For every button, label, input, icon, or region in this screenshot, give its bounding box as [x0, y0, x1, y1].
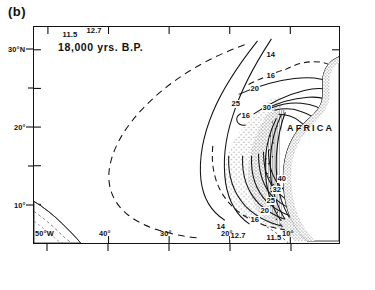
left-outer-ticks — [25, 26, 34, 244]
contour-label-25-top: 25 — [231, 100, 241, 108]
contour-label-16-interior: 16 — [241, 112, 251, 120]
contour-label-14-top: 14 — [266, 51, 276, 59]
contour-label-11_5-top: 11.5 — [62, 31, 78, 39]
x-tick-label-40: 40° — [99, 229, 111, 238]
africa-coastline — [283, 57, 339, 241]
x-tick-label-20: 20° — [221, 229, 233, 238]
contour-label-20-top: 20 — [250, 85, 260, 93]
x-tick-label-30: 30° — [160, 229, 172, 238]
figure-panel: (b) 18,000 yrs. B.P. — [0, 0, 375, 290]
contour-label-25-bottom: 25 — [266, 197, 276, 205]
africa-region-label: AFRICA — [287, 123, 334, 133]
contour-label-32: 32 — [272, 186, 282, 194]
y-tick-label-30n: 30°N — [8, 45, 25, 54]
y-tick-label-10: 10° — [14, 201, 26, 210]
x-tick-label-10: 10° — [282, 229, 294, 238]
contour-map-plot: 18,000 yrs. B.P. — [33, 26, 340, 244]
panel-label: (b) — [8, 4, 26, 19]
y-tick-label-20: 20° — [14, 123, 26, 132]
contour-label-20-bottom: 20 — [260, 207, 270, 215]
contour-label-11_5-bottom: 11.5 — [266, 234, 282, 242]
contour-11_5-outer — [109, 45, 245, 238]
contour-label-16-top: 16 — [266, 72, 276, 80]
bottom-outer-ticks — [33, 243, 340, 252]
contour-label-40: 40 — [277, 175, 287, 183]
contour-label-16-bottom: 16 — [250, 216, 260, 224]
contour-label-12_7-top: 12.7 — [86, 27, 102, 35]
map-graphics — [34, 27, 339, 243]
x-tick-label-50w: 50°W — [35, 229, 54, 238]
contour-label-30: 30 — [262, 104, 272, 112]
